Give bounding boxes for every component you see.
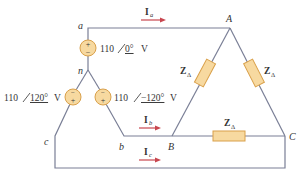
svg-text:V: V — [54, 93, 61, 103]
svg-text:b: b — [149, 119, 153, 126]
svg-text:Z: Z — [180, 66, 186, 76]
svg-text:a: a — [150, 11, 153, 18]
svg-text:−: − — [86, 48, 91, 57]
circuit-diagram: + − − + − + 110 0° V 110 120° V 110 −120… — [0, 0, 299, 174]
node-n: n — [78, 65, 83, 76]
svg-text:V: V — [170, 93, 177, 103]
svg-text:110: 110 — [4, 93, 18, 103]
current-Ia: I a — [141, 7, 166, 23]
svg-text:−120°: −120° — [141, 93, 165, 103]
node-A: A — [225, 13, 233, 24]
label-ZBC: Z Δ — [224, 118, 235, 130]
svg-text:Z: Z — [264, 66, 270, 76]
wire-a-to-A — [88, 28, 230, 40]
svg-text:Δ: Δ — [187, 71, 191, 78]
source-vb: − + — [95, 89, 111, 105]
svg-text:Z: Z — [224, 118, 230, 128]
svg-text:I: I — [144, 147, 148, 157]
svg-text:c: c — [149, 151, 152, 158]
svg-text:Δ: Δ — [231, 123, 235, 130]
svg-text:120°: 120° — [30, 93, 48, 103]
label-vc: 110 120° V — [4, 93, 61, 103]
impedance-AB — [194, 59, 215, 87]
label-ZAC: Z Δ — [264, 66, 275, 78]
node-B: B — [168, 141, 174, 152]
svg-text:110: 110 — [114, 93, 128, 103]
svg-text:I: I — [144, 115, 148, 125]
node-b: b — [119, 141, 124, 152]
source-vc: − + — [65, 89, 81, 105]
label-va: 110 0° V — [100, 44, 148, 54]
node-c: c — [44, 136, 49, 147]
svg-text:+: + — [71, 96, 76, 105]
current-Ib: I b — [139, 115, 161, 131]
node-C: C — [289, 131, 296, 142]
wire-vb-to-b — [106, 104, 285, 136]
svg-text:+: + — [101, 96, 106, 105]
arrow-right-icon — [155, 126, 161, 131]
svg-text:I: I — [145, 7, 149, 17]
source-va: + − — [80, 40, 96, 57]
wire-n-to-vb — [88, 70, 100, 90]
svg-text:0°: 0° — [125, 44, 134, 54]
impedance-BC — [213, 131, 245, 141]
svg-text:Δ: Δ — [271, 71, 275, 78]
arrow-right-icon — [155, 158, 161, 163]
label-ZAB: Z Δ — [180, 66, 191, 78]
node-a: a — [78, 20, 83, 31]
current-Ic: I c — [139, 147, 161, 163]
label-vb: 110 −120° V — [114, 93, 177, 103]
impedance-AC — [244, 59, 265, 87]
svg-text:V: V — [141, 44, 148, 54]
svg-text:110: 110 — [100, 44, 114, 54]
arrow-right-icon — [160, 18, 166, 23]
